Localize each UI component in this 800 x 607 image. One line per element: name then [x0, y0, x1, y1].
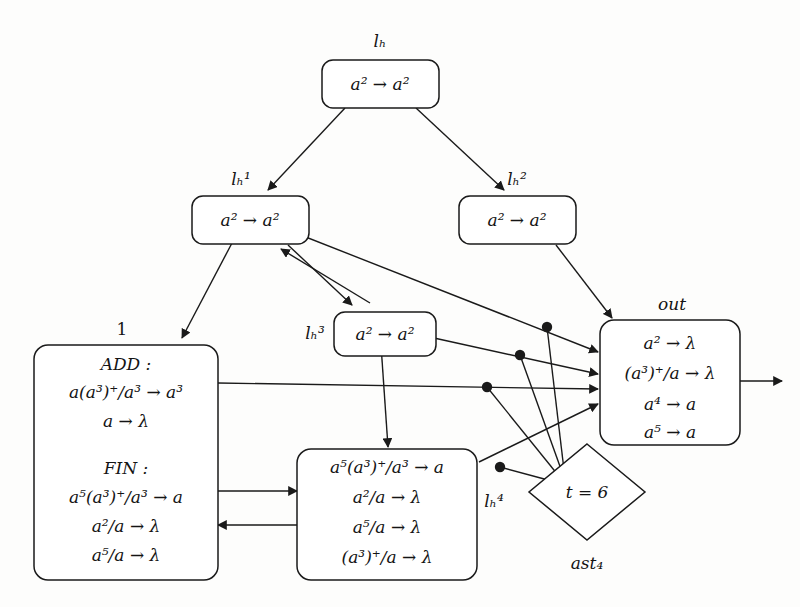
- spiking-neural-p-system-diagram: lₕ a² → a² lₕ¹ a² → a² lₕ² a² → a² lₕ³ a…: [0, 0, 800, 607]
- node-out-rule-1: (a³)⁺/a → λ: [625, 363, 716, 383]
- node-lh-rule-0: a² → a²: [351, 74, 410, 94]
- node-lh4[interactable]: lₕ⁴ a⁵(a³)⁺/a³ → a a²/a → λ a⁵/a → λ (a³…: [297, 449, 504, 580]
- node-lh1-label: lₕ¹: [231, 169, 251, 189]
- node-lh1[interactable]: lₕ¹ a² → a²: [192, 169, 309, 245]
- node-lh-label: lₕ: [374, 31, 387, 51]
- node-lh2[interactable]: lₕ² a² → a²: [459, 169, 576, 245]
- node-module1[interactable]: 1 ADD : a(a³)⁺/a³ → a³ a → λ FIN : a⁵(a³…: [34, 319, 218, 581]
- edge-dot-1: [542, 322, 552, 332]
- edge-dot-2: [515, 350, 525, 360]
- edge-lh2-to-out: [556, 245, 612, 318]
- node-lh4-rule-0: a⁵(a³)⁺/a³ → a: [330, 457, 444, 477]
- edge-lh-to-lh2: [416, 108, 504, 190]
- node-lh4-rule-1: a²/a → λ: [353, 487, 422, 507]
- node-lh4-rule-2: a⁵/a → λ: [353, 517, 422, 537]
- module1-fin-rule-2: a⁵/a → λ: [92, 545, 161, 565]
- node-lh3-label: lₕ³: [305, 323, 325, 343]
- edge-lh-to-lh1: [268, 108, 345, 190]
- node-out-rule-2: a⁴ → a: [644, 394, 696, 414]
- node-ast4-label: ast₄: [571, 553, 604, 573]
- edge-dot-4: [495, 462, 505, 472]
- node-ast4[interactable]: t = 6 ast₄: [529, 444, 645, 573]
- edge-module1-to-out: [218, 383, 598, 389]
- node-out-rule-0: a² → λ: [644, 333, 697, 353]
- edge-lh3-to-lh4: [381, 345, 388, 447]
- node-lh4-label: lₕ⁴: [484, 491, 504, 511]
- diagram-canvas: lₕ a² → a² lₕ¹ a² → a² lₕ² a² → a² lₕ³ a…: [0, 0, 800, 607]
- node-lh4-rule-3: (a³)⁺/a → λ: [342, 547, 433, 567]
- node-lh2-label: lₕ²: [507, 169, 527, 189]
- module1-add-heading: ADD :: [99, 354, 152, 374]
- module1-fin-heading: FIN :: [103, 458, 149, 478]
- module1-add-rule-0: a(a³)⁺/a³ → a³: [69, 382, 183, 402]
- edge-ast4-to-dot4: [500, 467, 548, 480]
- node-lh3[interactable]: lₕ³ a² → a²: [305, 312, 436, 356]
- edge-lh1-to-module1: [182, 243, 232, 338]
- edges-layer: [182, 108, 782, 525]
- node-module1-label: 1: [117, 319, 128, 339]
- edge-dot-3: [482, 382, 492, 392]
- module1-fin-rule-0: a⁵(a³)⁺/a³ → a: [69, 487, 183, 507]
- node-lh[interactable]: lₕ a² → a²: [322, 31, 439, 109]
- edge-lh1-to-lh3: [288, 245, 352, 305]
- node-ast4-condition: t = 6: [566, 482, 609, 502]
- node-lh3-rule-0: a² → a²: [356, 324, 415, 344]
- node-out-label: out: [658, 294, 686, 314]
- module1-fin-rule-1: a²/a → λ: [92, 516, 161, 536]
- node-out-rule-3: a⁵ → a: [644, 422, 696, 442]
- node-lh1-rule-0: a² → a²: [221, 210, 280, 230]
- edge-ast4-to-dot1: [547, 327, 564, 470]
- node-lh2-rule-0: a² → a²: [488, 210, 547, 230]
- module1-add-rule-1: a → λ: [103, 411, 149, 431]
- node-out[interactable]: out a² → λ (a³)⁺/a → λ a⁴ → a a⁵ → a: [600, 294, 740, 446]
